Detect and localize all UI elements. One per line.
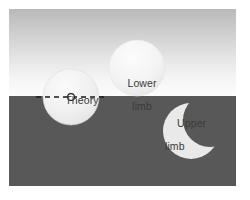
upper-limb-label-line2: limb bbox=[165, 141, 217, 153]
lower-limb-label-line2: limb bbox=[132, 100, 152, 112]
lower-limb-label: Lower limb bbox=[108, 66, 164, 124]
theory-label: Theory bbox=[48, 83, 104, 118]
upper-limb-label-line1: Upper bbox=[177, 117, 206, 129]
upper-limb-label: Upper limb bbox=[161, 106, 217, 175]
theory-label-text: Theory bbox=[65, 94, 98, 106]
diagram-canvas: Theory Lower limb Upper limb bbox=[9, 9, 236, 186]
lower-limb-label-line1: Lower bbox=[127, 77, 156, 89]
